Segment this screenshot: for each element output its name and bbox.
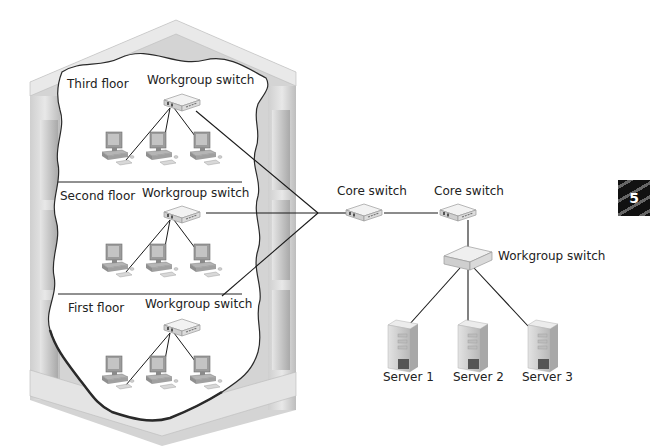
core-switch-1-label: Core switch [337,184,407,198]
first-floor-label: First floor [68,301,124,315]
third-floor-switch-label: Workgroup switch [147,73,254,87]
server-1-label: Server 1 [383,370,434,384]
chapter-badge: 5 [618,180,650,216]
core-switch-2-label: Core switch [434,184,504,198]
server-3-icon [528,320,558,372]
server-2-label: Server 2 [453,370,504,384]
server-workgroup-switch-label: Workgroup switch [498,249,605,263]
third-floor-label: Third floor [67,77,129,91]
core-switch-1-icon [346,204,382,221]
server-3-label: Server 3 [522,370,573,384]
second-floor-label: Second floor [60,189,135,203]
server-workgroup-switch-icon [444,246,492,270]
chapter-number: 5 [629,190,639,206]
server-2-icon [458,320,488,372]
second-floor-switch-label: Workgroup switch [142,186,249,200]
server-1-icon [388,320,418,372]
first-floor-switch-label: Workgroup switch [145,297,252,311]
core-switch-2-icon [440,204,476,221]
